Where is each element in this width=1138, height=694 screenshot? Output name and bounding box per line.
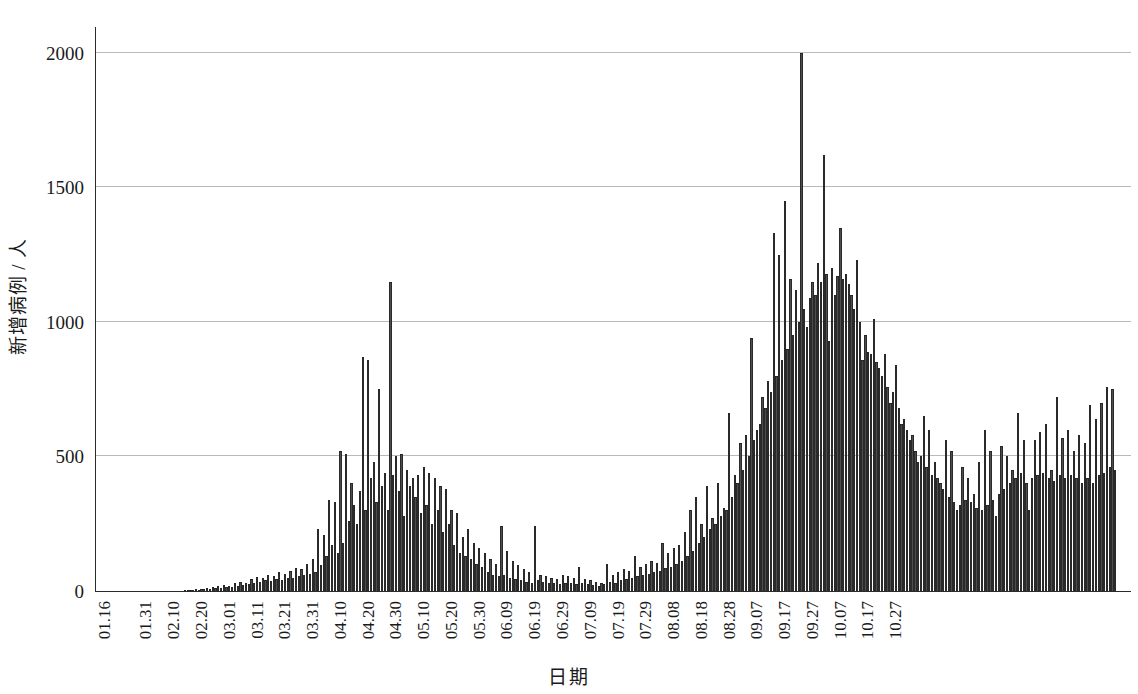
x-tick-label: 04.10 xyxy=(327,596,341,660)
bar-chart-figure: 新增病例 / 人 0500100015002000 01.1601.3102.1… xyxy=(0,0,1138,694)
bar-series xyxy=(96,27,1131,591)
x-tick-label: 07.19 xyxy=(605,596,619,660)
x-axis-tick-labels: 01.1601.3102.1002.2003.0103.1103.2103.31… xyxy=(95,596,1131,662)
x-tick-label: 05.20 xyxy=(438,596,452,660)
x-tick-label: 04.30 xyxy=(382,596,396,660)
x-tick-label-text: 10.17 xyxy=(862,601,876,639)
x-tick-label-text: 08.08 xyxy=(667,601,681,639)
x-tick-label-text: 03.31 xyxy=(306,601,320,639)
x-tick-label-text: 06.19 xyxy=(528,601,542,639)
x-tick-label: 03.21 xyxy=(271,596,285,660)
y-axis-title: 新增病例 / 人 xyxy=(0,0,34,592)
x-tick-label-text: 08.18 xyxy=(695,601,709,639)
x-tick-label-text: 03.11 xyxy=(251,601,265,639)
x-tick-label: 09.07 xyxy=(744,596,758,660)
x-tick-label: 08.28 xyxy=(716,596,730,660)
x-tick-label: 06.19 xyxy=(521,596,535,660)
x-tick-label: 08.18 xyxy=(688,596,702,660)
x-tick-label-text: 05.10 xyxy=(417,601,431,639)
x-tick-label: 05.10 xyxy=(410,596,424,660)
x-tick-label: 10.27 xyxy=(882,596,896,660)
x-tick-label-text: 04.30 xyxy=(389,601,403,639)
x-tick-label: 06.29 xyxy=(549,596,563,660)
x-tick-label-text: 04.10 xyxy=(334,601,348,639)
x-tick-label-text: 01.16 xyxy=(98,601,112,639)
x-tick-label: 03.31 xyxy=(299,596,313,660)
x-tick-label-text: 08.28 xyxy=(723,601,737,639)
x-tick-label: 07.29 xyxy=(632,596,646,660)
y-tick-label: 500 xyxy=(56,446,85,468)
x-tick-label: 08.08 xyxy=(660,596,674,660)
x-tick-label-text: 07.09 xyxy=(584,601,598,639)
y-tick-label: 2000 xyxy=(46,43,84,65)
x-tick-label: 02.10 xyxy=(160,596,174,660)
x-tick-label: 10.07 xyxy=(827,596,841,660)
plot-area xyxy=(95,27,1131,592)
x-tick-label-text: 04.20 xyxy=(362,601,376,639)
x-tick-label: 09.17 xyxy=(771,596,785,660)
y-tick-label: 1000 xyxy=(46,312,84,334)
x-tick-label: 01.16 xyxy=(91,596,105,660)
x-tick-label-text: 09.07 xyxy=(751,601,765,639)
x-tick-label: 05.30 xyxy=(466,596,480,660)
x-tick-label-text: 05.20 xyxy=(445,601,459,639)
x-tick-label: 01.31 xyxy=(132,596,146,660)
x-axis-title-text: 日期 xyxy=(548,667,590,688)
x-tick-label: 03.01 xyxy=(216,596,230,660)
y-axis-title-text: 新增病例 / 人 xyxy=(4,237,31,355)
x-tick-label-text: 10.27 xyxy=(889,601,903,639)
y-tick-label: 0 xyxy=(75,581,85,603)
x-tick-label: 07.09 xyxy=(577,596,591,660)
x-tick-label-text: 03.21 xyxy=(278,601,292,639)
x-tick-label-text: 06.29 xyxy=(556,601,570,639)
x-tick-label-text: 02.10 xyxy=(167,601,181,639)
x-tick-label: 04.20 xyxy=(355,596,369,660)
x-tick-label-text: 07.19 xyxy=(612,601,626,639)
y-tick-label: 1500 xyxy=(46,177,84,199)
x-tick-label-text: 02.20 xyxy=(195,601,209,639)
x-tick-label: 03.11 xyxy=(244,596,258,660)
x-tick-label: 09.27 xyxy=(799,596,813,660)
x-tick-label-text: 03.01 xyxy=(223,601,237,639)
x-tick-label: 10.17 xyxy=(855,596,869,660)
x-tick-label-text: 05.30 xyxy=(473,601,487,639)
x-tick-label: 02.20 xyxy=(188,596,202,660)
x-tick-label-text: 01.31 xyxy=(139,601,153,639)
y-axis-tick-labels: 0500100015002000 xyxy=(34,0,92,694)
x-axis-title: 日期 xyxy=(0,662,1138,689)
x-tick-label: 06.09 xyxy=(494,596,508,660)
x-tick-label-text: 09.27 xyxy=(806,601,820,639)
bar xyxy=(1114,470,1116,591)
x-tick-label-text: 07.29 xyxy=(639,601,653,639)
x-tick-label-text: 10.07 xyxy=(834,601,848,639)
x-tick-label-text: 06.09 xyxy=(501,601,515,639)
x-tick-label-text: 09.17 xyxy=(778,601,792,639)
